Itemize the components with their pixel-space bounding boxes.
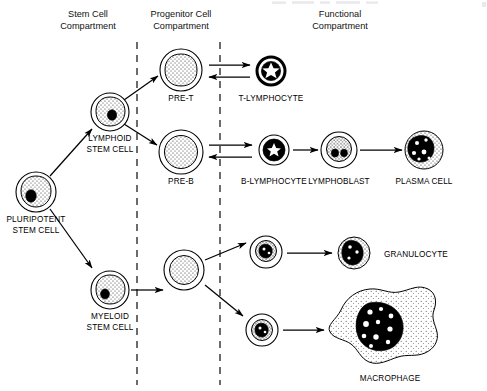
arrow-pre-t-to-t-lymphocyte xyxy=(209,65,250,77)
diagram-canvas: Stem Cell Compartment Progenitor Cell Co… xyxy=(0,0,487,391)
cell-t-lymphocyte: T-LYMPHOCYTE xyxy=(239,57,304,103)
cell-pluripotent-stem-cell: PLURIPOTENT STEM CELL xyxy=(7,172,66,235)
cell-label-lymphoid-line2: STEM CELL xyxy=(87,145,134,154)
header-stem-cell-line1: Stem Cell xyxy=(68,9,108,19)
cell-macrophage: MACROPHAGE xyxy=(329,287,437,383)
arrow-pre-b-to-b-lymphocyte xyxy=(209,145,252,157)
cell-label-macrophage: MACROPHAGE xyxy=(360,374,421,383)
cell-label-plasma-cell: PLASMA CELL xyxy=(395,177,452,186)
cell-label-pre-t: PRE-T xyxy=(168,94,193,103)
header-functional-line2: Compartment xyxy=(312,21,368,31)
cell-label-pre-b: PRE-B xyxy=(168,177,194,186)
cell-label-myeloid-line2: STEM CELL xyxy=(87,323,134,332)
arrow-lymphoid-to-pre-t xyxy=(124,76,158,100)
cell-myeloid-progenitor xyxy=(164,250,204,290)
cell-label-b-lymphocyte: B-LYMPHOCYTE xyxy=(241,177,307,186)
cell-lymphoblast: LYMPHOBLAST xyxy=(308,132,370,186)
header-progenitor-cell-line2: Compartment xyxy=(153,21,209,31)
header-functional-line1: Functional xyxy=(319,9,361,19)
cell-granulocyte-precursor xyxy=(250,236,282,268)
hematopoiesis-diagram: Stem Cell Compartment Progenitor Cell Co… xyxy=(0,0,487,391)
cell-granulocyte: GRANULOCYTE xyxy=(338,237,448,269)
scan-top-artifact xyxy=(272,1,486,7)
arrow-progenitor-to-granulocyte-precursor xyxy=(205,243,246,260)
cell-myeloid-stem-cell: MYELOID STEM CELL xyxy=(87,271,134,332)
cell-label-myeloid-line1: MYELOID xyxy=(91,312,129,321)
cell-label-lymphoblast: LYMPHOBLAST xyxy=(308,177,370,186)
header-stem-cell-line2: Compartment xyxy=(60,21,116,31)
cell-label-lymphoid-line1: LYMPHOID xyxy=(88,134,131,143)
cell-label-granulocyte: GRANULOCYTE xyxy=(384,250,448,259)
cell-monocyte-precursor xyxy=(246,314,278,346)
cell-label-pluripotent-line1: PLURIPOTENT xyxy=(7,215,66,224)
cell-pre-t-cell: PRE-T xyxy=(160,49,202,103)
header-progenitor-cell-line1: Progenitor Cell xyxy=(151,9,212,19)
compartment-headers: Stem Cell Compartment Progenitor Cell Co… xyxy=(60,9,368,31)
arrow-progenitor-to-monocyte-precursor xyxy=(205,285,243,316)
cell-plasma-cell: PLASMA CELL xyxy=(395,131,452,186)
cell-label-t-lymphocyte: T-LYMPHOCYTE xyxy=(239,94,304,103)
cell-label-pluripotent-line2: STEM CELL xyxy=(13,226,60,235)
cell-lymphoid-stem-cell: LYMPHOID STEM CELL xyxy=(87,93,134,154)
cell-b-lymphocyte: B-LYMPHOCYTE xyxy=(241,135,307,186)
cell-pre-b-cell: PRE-B xyxy=(159,130,203,186)
